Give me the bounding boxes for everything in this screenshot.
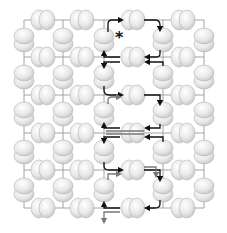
vertical-sphere-stack bbox=[14, 140, 34, 164]
horizontal-sphere-pair bbox=[121, 123, 145, 143]
vertical-sphere-stack bbox=[53, 28, 73, 52]
horizontal-sphere-pair bbox=[121, 198, 145, 218]
horizontal-sphere-pair bbox=[31, 10, 55, 30]
horizontal-sphere-pair bbox=[171, 47, 195, 67]
horizontal-sphere-pair bbox=[31, 160, 55, 180]
horizontal-sphere-pair bbox=[121, 47, 145, 67]
vertical-sphere-stack bbox=[53, 102, 73, 126]
vertical-sphere-stack bbox=[153, 65, 173, 89]
transport-arrow bbox=[144, 167, 156, 176]
vertical-sphere-stack bbox=[53, 178, 73, 202]
horizontal-sphere-pair bbox=[31, 85, 55, 105]
horizontal-sphere-pair bbox=[121, 10, 145, 30]
horizontal-sphere-pair bbox=[70, 123, 94, 143]
vertical-sphere-stack bbox=[153, 28, 173, 52]
transport-arrow bbox=[108, 174, 120, 180]
vertical-sphere-stack bbox=[194, 178, 214, 202]
vertical-sphere-stack bbox=[153, 178, 173, 202]
start-marker-asterisk: * bbox=[115, 28, 124, 47]
vertical-sphere-stack bbox=[194, 102, 214, 126]
vertical-sphere-stack bbox=[53, 65, 73, 89]
horizontal-sphere-pair bbox=[70, 160, 94, 180]
vertical-sphere-stack bbox=[94, 65, 114, 89]
vertical-sphere-stack bbox=[94, 178, 114, 202]
qubit-grid-diagram: * bbox=[0, 0, 227, 233]
vertical-sphere-stack bbox=[14, 65, 34, 89]
horizontal-sphere-pair bbox=[70, 47, 94, 67]
horizontal-sphere-pair bbox=[171, 198, 195, 218]
vertical-sphere-stack bbox=[94, 140, 114, 164]
horizontal-sphere-pair bbox=[171, 160, 195, 180]
horizontal-sphere-pair bbox=[171, 123, 195, 143]
vertical-sphere-stack bbox=[14, 178, 34, 202]
vertical-sphere-stack bbox=[194, 140, 214, 164]
horizontal-sphere-pair bbox=[121, 160, 145, 180]
horizontal-sphere-pair bbox=[31, 198, 55, 218]
horizontal-sphere-pair bbox=[70, 85, 94, 105]
horizontal-sphere-pair bbox=[171, 85, 195, 105]
horizontal-sphere-pair bbox=[121, 85, 145, 105]
horizontal-sphere-pair bbox=[70, 198, 94, 218]
horizontal-sphere-pair bbox=[31, 123, 55, 143]
horizontal-sphere-pair bbox=[171, 10, 195, 30]
vertical-sphere-stack bbox=[94, 102, 114, 126]
transport-arrow bbox=[104, 212, 120, 222]
transport-arrow bbox=[104, 203, 120, 208]
transport-arrow bbox=[144, 20, 160, 30]
vertical-sphere-stack bbox=[194, 65, 214, 89]
node-grid bbox=[14, 10, 214, 218]
vertical-sphere-stack bbox=[153, 140, 173, 164]
horizontal-sphere-pair bbox=[70, 10, 94, 30]
vertical-sphere-stack bbox=[94, 28, 114, 52]
vertical-sphere-stack bbox=[53, 140, 73, 164]
transport-arrow bbox=[108, 97, 120, 104]
horizontal-sphere-pair bbox=[31, 47, 55, 67]
transport-arrow bbox=[104, 52, 120, 57]
transport-arrow bbox=[144, 95, 160, 104]
vertical-sphere-stack bbox=[14, 102, 34, 126]
transport-arrow bbox=[144, 170, 160, 180]
vertical-sphere-stack bbox=[14, 28, 34, 52]
vertical-sphere-stack bbox=[153, 102, 173, 126]
vertical-sphere-stack bbox=[194, 28, 214, 52]
